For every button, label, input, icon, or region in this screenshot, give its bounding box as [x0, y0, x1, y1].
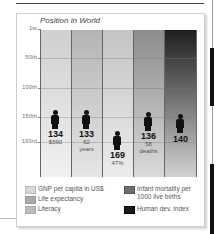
y-tick-label: 50th [16, 54, 37, 60]
stat-value: 47% [102, 160, 133, 167]
y-tick-label: 193rd [16, 138, 37, 144]
rank-value: 169 [102, 150, 133, 160]
person-icon [49, 110, 61, 129]
legend-swatch-infant-mortality [124, 186, 135, 194]
gridline [40, 88, 197, 89]
right-edge-bar [210, 48, 214, 106]
rank-value: 140 [165, 134, 196, 144]
legend-swatch-literacy [25, 206, 36, 214]
rank-value: 133 [71, 129, 102, 139]
person-icon [111, 131, 123, 150]
top-rule [16, 3, 204, 4]
legend-label-line2: 1000 live births [137, 193, 181, 201]
legend-swatch-life-expectancy [25, 196, 36, 204]
legend-label: Infant mortality per [137, 185, 191, 193]
stat-unit: deaths [133, 148, 164, 155]
legend-label: Literacy [38, 205, 61, 213]
stat-value: $590 [40, 139, 71, 146]
stat-value: 62 [71, 139, 102, 146]
legend-label: Life expectancy [38, 195, 83, 203]
stat-value: 58 [133, 141, 164, 148]
column-life-expectancy [71, 30, 102, 177]
person-icon [80, 110, 92, 129]
right-edge-bar [210, 164, 214, 234]
person-icon [174, 114, 186, 133]
legend-swatch-gnp [25, 186, 36, 194]
legend-label: Human dev. index [137, 205, 189, 213]
rank-value: 136 [133, 131, 164, 141]
stat-unit: years [71, 146, 102, 153]
rank-value: 134 [40, 129, 71, 139]
person-icon [142, 112, 154, 131]
legend-swatch-human-dev-index [124, 206, 135, 214]
y-tick-label: 1st [16, 25, 37, 31]
y-tick-label: 150th [16, 113, 37, 119]
gridline [40, 58, 197, 59]
legend-label: GNP per capita in US$ [38, 185, 104, 193]
chart-title: Position in World [40, 16, 100, 25]
y-tick-label: 100th [16, 84, 37, 90]
column-gnp [40, 30, 71, 177]
column-human-dev-index [164, 30, 197, 177]
